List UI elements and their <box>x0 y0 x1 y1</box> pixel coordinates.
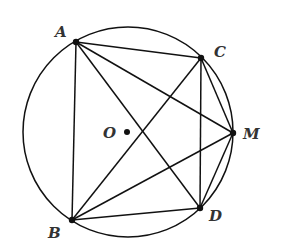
label-a: A <box>53 23 67 41</box>
point-m <box>230 130 236 136</box>
segment-cd <box>200 58 201 208</box>
point-c <box>198 55 204 61</box>
center-point-o <box>124 129 130 135</box>
label-m: M <box>242 125 260 143</box>
label-c: C <box>214 43 226 61</box>
label-o: O <box>103 124 116 142</box>
label-d: D <box>208 207 222 225</box>
point-b <box>69 217 75 223</box>
geometry-diagram: ACMDBO <box>0 0 283 252</box>
point-d <box>197 205 203 211</box>
label-b: B <box>47 224 61 242</box>
point-a <box>73 39 79 45</box>
